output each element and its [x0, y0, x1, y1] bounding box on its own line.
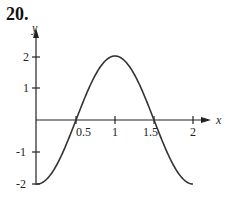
y-tick-label: -1 [16, 145, 26, 159]
x-axis-arrow-icon [201, 117, 211, 123]
y-tick-label: -2 [16, 177, 26, 191]
x-tick-label: 1.5 [143, 125, 158, 139]
x-axis-label: x [215, 113, 222, 127]
chart: y x 2 1 -1 -2 0.5 1 1.5 2 [0, 0, 231, 202]
x-tick-label: 1 [112, 125, 118, 139]
x-tick-label: 0.5 [76, 125, 91, 139]
y-tick-label: 2 [23, 50, 29, 64]
x-tick-label: 2 [190, 125, 196, 139]
y-tick-label: 1 [23, 81, 29, 95]
y-axis-label: y [31, 21, 38, 35]
